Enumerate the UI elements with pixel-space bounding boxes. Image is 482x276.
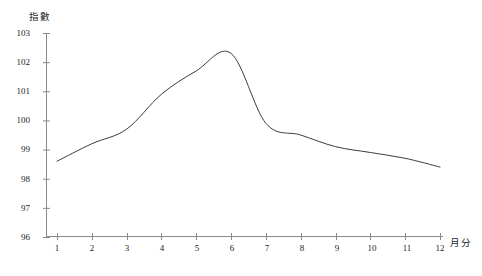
chart-page: 指數 月分 103 102 101 100 99 98 97 96 1 2 3 …	[0, 0, 482, 276]
axes-group	[47, 33, 444, 237]
series-line-index	[57, 51, 440, 167]
line-chart: 指數 月分 103 102 101 100 99 98 97 96 1 2 3 …	[0, 0, 482, 276]
plot-area	[0, 0, 482, 276]
